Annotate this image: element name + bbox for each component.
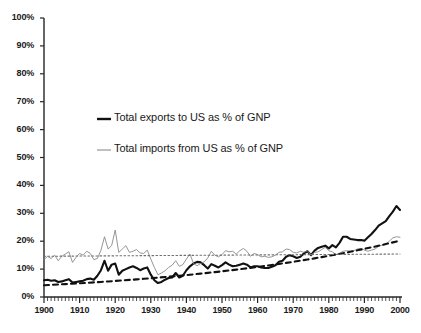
y-tick-label: 60%: [2, 124, 34, 134]
x-tick-label: 1930: [131, 305, 171, 315]
x-tick-label: 2000: [380, 305, 420, 315]
legend-label-1: Total imports from US as % of GNP: [114, 142, 283, 154]
y-tick-label: 30%: [2, 207, 34, 217]
y-tick-label: 90%: [2, 40, 34, 50]
x-tick-label: 1940: [166, 305, 206, 315]
y-tick-label: 70%: [2, 96, 34, 106]
x-tick-label: 1970: [273, 305, 313, 315]
y-tick-label: 10%: [2, 263, 34, 273]
x-tick-label: 1920: [95, 305, 135, 315]
series-dashed: [44, 241, 400, 286]
x-tick-label: 1990: [344, 305, 384, 315]
x-tick-label: 1960: [238, 305, 278, 315]
x-tick-label: 1900: [24, 305, 64, 315]
x-tick-label: 1980: [309, 305, 349, 315]
chart-plot-area: [0, 0, 421, 333]
x-tick-label: 1910: [60, 305, 100, 315]
y-tick-label: 100%: [2, 12, 34, 22]
y-tick-label: 80%: [2, 68, 34, 78]
y-tick-label: 40%: [2, 179, 34, 189]
chart-container: 0%10%20%30%40%50%60%70%80%90%100%1900191…: [0, 0, 421, 333]
legend-label-0: Total exports to US as % of GNP: [114, 111, 270, 123]
y-tick-label: 50%: [2, 152, 34, 162]
y-tick-label: 20%: [2, 235, 34, 245]
series-thick-solid: [44, 206, 400, 283]
y-tick-label: 0%: [2, 291, 34, 301]
x-tick-label: 1950: [202, 305, 242, 315]
